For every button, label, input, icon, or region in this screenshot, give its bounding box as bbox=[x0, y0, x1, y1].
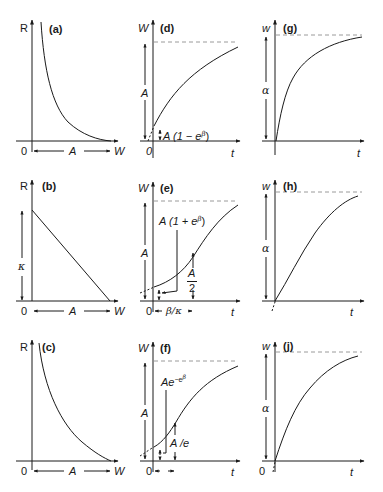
curve-extrapolation bbox=[140, 447, 154, 456]
x-axis-label: W bbox=[114, 306, 124, 317]
curve-extrapolation bbox=[140, 287, 154, 293]
panel-tag: (c) bbox=[42, 342, 55, 353]
initial-value-base: A (1 + e bbox=[159, 215, 197, 227]
x-axis-label: t bbox=[350, 467, 353, 478]
y-axis-label: R bbox=[20, 23, 28, 34]
panel-c bbox=[16, 340, 118, 471]
panel-tag: (d) bbox=[160, 23, 174, 34]
asymptote-label: A bbox=[141, 88, 148, 99]
asymptote-label: A bbox=[141, 248, 148, 259]
initial-value-close: ) bbox=[205, 130, 209, 142]
curve-extrapolation bbox=[272, 302, 275, 311]
y-axis-label: w bbox=[262, 23, 270, 34]
x-axis-label: W bbox=[114, 146, 124, 157]
panel-tag: (j) bbox=[283, 341, 293, 352]
initial-value-label: A (1 − eβ) bbox=[163, 131, 209, 142]
origin-label: 0 bbox=[21, 146, 27, 157]
initial-value-label: A (1 + eβ) bbox=[159, 216, 205, 227]
span-label: A bbox=[69, 146, 76, 157]
inflection-value-label: A /e bbox=[170, 438, 189, 449]
panel-tag: (f) bbox=[160, 343, 171, 354]
y-axis-label: w bbox=[262, 341, 270, 352]
initial-value-leader bbox=[162, 230, 177, 293]
y-axis-label: R bbox=[20, 181, 28, 192]
alpha-label: α bbox=[262, 403, 269, 414]
origin-label: 0 bbox=[146, 466, 152, 477]
asymptote-label: A bbox=[141, 408, 148, 419]
x-axis-label: t bbox=[357, 148, 360, 159]
curve-fast-saturating bbox=[276, 37, 362, 141]
origin-label: 0 bbox=[146, 306, 152, 317]
origin-label: 0 bbox=[21, 466, 27, 477]
initial-value-base: A (1 − e bbox=[163, 130, 201, 142]
panel-tag: (a) bbox=[49, 24, 62, 35]
panel-b bbox=[16, 180, 118, 311]
x-axis-label: t bbox=[231, 307, 234, 318]
origin-label: 0 bbox=[146, 146, 152, 157]
span-label: A bbox=[69, 306, 76, 317]
panel-tag: (e) bbox=[160, 183, 173, 194]
x-axis-label: t bbox=[350, 307, 353, 318]
alpha-label: α bbox=[262, 85, 269, 96]
y-axis-label: W bbox=[138, 343, 148, 354]
initial-value-label: Ae−eβ bbox=[161, 377, 186, 388]
panel-tag: (g) bbox=[283, 23, 297, 34]
origin-label: 0 bbox=[21, 306, 27, 317]
half-denominator: 2 bbox=[189, 283, 195, 294]
y-axis-label: w bbox=[262, 181, 270, 192]
curve-saturating bbox=[275, 356, 358, 461]
initial-value-leader bbox=[163, 390, 166, 453]
curve-exponential bbox=[39, 343, 111, 461]
half-numerator: A bbox=[188, 268, 195, 279]
curve-sigmoid-saturating bbox=[275, 196, 358, 301]
line-linear bbox=[32, 210, 110, 301]
panel-h bbox=[262, 180, 364, 311]
initial-value-close: ) bbox=[201, 215, 205, 227]
inflection-time-label: β/κ bbox=[166, 306, 182, 316]
panel-tag: (h) bbox=[283, 181, 297, 192]
alpha-label: α bbox=[262, 243, 269, 254]
growth-curves-figure bbox=[0, 0, 383, 492]
initial-value-base: Ae bbox=[161, 376, 174, 388]
panel-tag: (b) bbox=[42, 181, 56, 192]
curve-monomolecular bbox=[154, 47, 238, 126]
x-axis-label: W bbox=[114, 466, 124, 477]
y-axis-label: W bbox=[138, 23, 148, 34]
origin-label: 0 bbox=[259, 466, 265, 477]
panel-f bbox=[140, 342, 240, 472]
panel-j bbox=[262, 342, 364, 472]
panel-g bbox=[262, 20, 364, 155]
x-axis-label: t bbox=[231, 148, 234, 159]
kappa-label: κ bbox=[18, 261, 25, 272]
curve-hyperbolic bbox=[41, 22, 111, 141]
initial-value-exponent: −eβ bbox=[174, 376, 185, 383]
span-label: A bbox=[69, 466, 76, 477]
x-axis-label: t bbox=[231, 467, 234, 478]
y-axis-label: W bbox=[138, 183, 148, 194]
y-axis-label: R bbox=[20, 342, 28, 353]
panel-a bbox=[16, 20, 118, 152]
exponent-power: β bbox=[182, 373, 185, 380]
